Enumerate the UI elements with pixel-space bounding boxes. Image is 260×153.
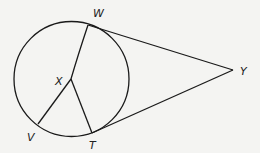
tangent-wy [88, 25, 233, 70]
label-y: Y [240, 65, 248, 78]
tangent-ty [92, 70, 233, 133]
label-v: V [27, 131, 36, 144]
geometry-diagram: W X V T Y [0, 0, 260, 153]
segment-xt [71, 79, 92, 133]
segment-wx [71, 25, 88, 79]
label-t: T [89, 139, 97, 152]
label-w: W [93, 7, 105, 20]
label-x: X [54, 75, 63, 88]
